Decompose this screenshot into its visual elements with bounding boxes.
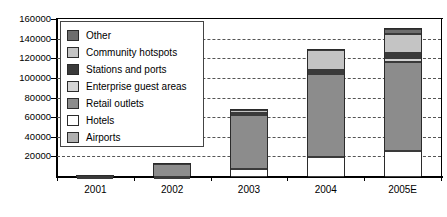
legend-item: Community hotspots xyxy=(67,44,203,61)
legend-item: Retail outlets xyxy=(67,95,203,112)
bar-segment xyxy=(308,72,344,74)
y-axis-tick xyxy=(51,39,57,40)
y-axis-tick-label: 20000 xyxy=(25,151,51,161)
y-axis-tick-label: 40000 xyxy=(25,132,51,142)
plot-top-border xyxy=(56,18,443,19)
y-axis-tick-label: 80000 xyxy=(25,93,51,103)
bar-column xyxy=(153,163,191,176)
x-axis-tick xyxy=(441,176,442,181)
legend-item: Other xyxy=(67,27,203,44)
x-axis-tick xyxy=(134,176,135,181)
legend-item: Airports xyxy=(67,129,203,146)
bar-segment xyxy=(231,169,267,177)
y-axis-tick xyxy=(51,58,57,59)
y-axis-tick xyxy=(51,117,57,118)
bar-segment xyxy=(385,151,421,177)
legend-item-label: Enterprise guest areas xyxy=(86,81,187,92)
bar-column xyxy=(230,109,268,176)
bar-segment xyxy=(308,70,344,72)
y-axis-tick xyxy=(51,137,57,138)
bar-segment xyxy=(385,58,421,62)
legend-item-label: Stations and ports xyxy=(86,64,167,75)
x-axis-tick-label: 2001 xyxy=(57,184,134,195)
bar-segment xyxy=(231,113,267,115)
y-axis-tick-label: 60000 xyxy=(25,112,51,122)
stacked-bar-chart: 1600001400001200001000008000060000400002… xyxy=(0,0,447,217)
x-axis-tick-label: 2003 xyxy=(211,184,288,195)
legend-swatch-icon xyxy=(67,132,79,143)
bar-segment xyxy=(385,29,421,33)
legend-item-label: Other xyxy=(86,30,111,41)
legend-swatch-icon xyxy=(67,98,79,109)
y-axis-tick-label: 100000 xyxy=(19,73,51,83)
x-axis-tick-label: 2005E xyxy=(364,184,441,195)
bar-segment xyxy=(385,62,421,151)
bar-segment xyxy=(77,176,113,178)
legend-swatch-icon xyxy=(67,64,79,75)
bar-segment xyxy=(308,74,344,157)
bar-column xyxy=(384,28,422,176)
legend-item-label: Retail outlets xyxy=(86,98,144,109)
legend-item: Stations and ports xyxy=(67,61,203,78)
legend-item-label: Community hotspots xyxy=(86,47,177,58)
bar-segment xyxy=(385,34,421,54)
bar-column xyxy=(76,175,114,177)
plot-right-border xyxy=(441,18,442,177)
legend-swatch-icon xyxy=(67,81,79,92)
y-axis-tick xyxy=(51,19,57,20)
legend-swatch-icon xyxy=(67,115,79,126)
legend-swatch-icon xyxy=(67,30,79,41)
bar-segment xyxy=(385,53,421,58)
bar-segment xyxy=(308,157,344,177)
bar-segment xyxy=(308,50,344,70)
x-axis-tick xyxy=(57,176,58,181)
y-axis-tick-label: 120000 xyxy=(19,53,51,63)
legend-item-label: Airports xyxy=(86,132,120,143)
y-axis-tick-label: 140000 xyxy=(19,34,51,44)
bar-segment xyxy=(154,177,190,179)
x-axis-tick xyxy=(364,176,365,181)
x-axis-tick xyxy=(287,176,288,181)
legend-item-label: Hotels xyxy=(86,115,114,126)
bar-segment xyxy=(231,115,267,169)
chart-legend: OtherCommunity hotspotsStations and port… xyxy=(60,21,204,147)
legend-item: Enterprise guest areas xyxy=(67,78,203,95)
y-axis-tick-label: 160000 xyxy=(19,14,51,24)
x-axis-tick xyxy=(211,176,212,181)
legend-swatch-icon xyxy=(67,47,79,58)
bar-segment xyxy=(154,164,190,177)
x-axis-tick-label: 2004 xyxy=(287,184,364,195)
bar-segment xyxy=(231,110,267,112)
y-axis-tick xyxy=(51,156,57,157)
legend-item: Hotels xyxy=(67,112,203,129)
x-axis-tick-label: 2002 xyxy=(134,184,211,195)
bar-column xyxy=(307,49,345,176)
y-axis-tick xyxy=(51,98,57,99)
y-axis-tick xyxy=(51,78,57,79)
